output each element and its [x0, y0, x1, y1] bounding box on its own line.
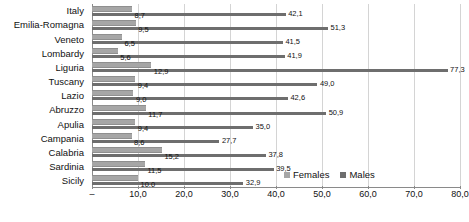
data-label-males: 27,7: [219, 137, 236, 145]
gridline: [460, 4, 461, 188]
category-label: Sicily: [0, 174, 88, 188]
data-label-males: 42,1: [286, 10, 303, 18]
data-label-males: 49,0: [317, 80, 334, 88]
bar-females: [92, 147, 162, 153]
bar-females: [92, 76, 135, 82]
bar-row: 6,541,5: [92, 32, 460, 46]
bar-males: [92, 182, 243, 185]
bar-females: [92, 34, 122, 40]
bar-females: [92, 48, 118, 54]
x-tick-label: 70,0: [405, 190, 423, 199]
bar-females: [92, 90, 133, 96]
x-axis: –10,020,030,040,050,060,070,080,0: [92, 190, 460, 204]
data-label-males: 42,6: [288, 94, 305, 102]
bar-males: [92, 69, 448, 72]
legend-item[interactable]: Males: [340, 170, 374, 180]
bar-males: [92, 27, 328, 30]
legend-label: Males: [349, 170, 374, 180]
bar-males: [92, 126, 253, 129]
category-label: Calabria: [0, 146, 88, 160]
category-label: Abruzzo: [0, 103, 88, 117]
data-label-males: 77,3: [448, 66, 465, 74]
bar-females: [92, 62, 151, 68]
bar-males: [92, 41, 283, 44]
data-label-males: 41,5: [283, 38, 300, 46]
bar-row: 11,539,5: [92, 160, 460, 174]
bar-row: 9,551,3: [92, 18, 460, 32]
bar-males: [92, 83, 317, 86]
category-axis: ItalyEmilia-RomagnaVenetoLombardyLiguria…: [0, 4, 88, 188]
data-label-males: 35,0: [253, 123, 270, 131]
bar-row: 9,449,0: [92, 75, 460, 89]
legend-swatch-icon: [340, 172, 346, 178]
legend-label: Females: [293, 170, 329, 180]
data-label-males: 37,8: [266, 151, 283, 159]
x-tick-label: 20,0: [175, 190, 193, 199]
category-label: Emilia-Romagna: [0, 18, 88, 32]
category-label: Sardinia: [0, 160, 88, 174]
bar-row: 9,435,0: [92, 117, 460, 131]
bar-rows: 8,742,19,551,36,541,55,641,912,977,39,44…: [92, 4, 460, 188]
data-label-males: 51,3: [328, 24, 345, 32]
bar-females: [92, 133, 132, 139]
data-label-males: 50,9: [326, 109, 343, 117]
bar-females: [92, 161, 145, 167]
data-label-males: 32,9: [243, 179, 260, 187]
x-tick-label: 60,0: [359, 190, 377, 199]
category-label: Liguria: [0, 61, 88, 75]
bar-males: [92, 140, 219, 143]
x-tick-label: 30,0: [221, 190, 239, 199]
x-tick-label: 10,0: [129, 190, 147, 199]
bar-row: 15,237,8: [92, 146, 460, 160]
bar-males: [92, 13, 286, 16]
category-label: Apulia: [0, 117, 88, 131]
x-tick-label: 50,0: [313, 190, 331, 199]
category-label: Tuscany: [0, 75, 88, 89]
bar-row: 9,042,6: [92, 89, 460, 103]
bar-row: 11,750,9: [92, 103, 460, 117]
bar-males: [92, 112, 326, 115]
category-label: Campania: [0, 131, 88, 145]
category-label: Lombardy: [0, 46, 88, 60]
bar-males: [92, 168, 274, 171]
data-label-males: 41,9: [285, 52, 302, 60]
bar-row: 8,742,1: [92, 4, 460, 18]
bar-males: [92, 97, 288, 100]
chart-legend: FemalesMales: [284, 170, 375, 180]
x-tick-label: –: [89, 190, 94, 199]
category-label: Italy: [0, 4, 88, 18]
bar-females: [92, 105, 146, 111]
bar-row: 5,641,9: [92, 46, 460, 60]
x-tick-label: 80,0: [451, 190, 469, 199]
bar-females: [92, 6, 132, 12]
x-tick-label: 40,0: [267, 190, 285, 199]
bar-females: [92, 20, 136, 26]
category-label: Lazio: [0, 89, 88, 103]
bar-females: [92, 119, 135, 125]
category-label: Veneto: [0, 32, 88, 46]
plot-area: 8,742,19,551,36,541,55,641,912,977,39,44…: [92, 4, 460, 188]
legend-item[interactable]: Females: [284, 170, 329, 180]
bar-row: 12,977,3: [92, 61, 460, 75]
legend-swatch-icon: [284, 172, 290, 178]
bar-row: 8,627,7: [92, 131, 460, 145]
bar-females: [92, 175, 138, 181]
